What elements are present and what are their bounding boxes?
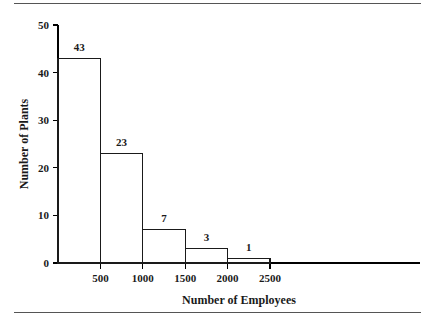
y-axis-ticks [53, 25, 58, 263]
histogram-chart: 0 10 20 30 40 50 500 1000 1500 2000 2500… [0, 0, 435, 328]
x-tick-label-2500: 2500 [259, 272, 282, 284]
y-tick-label-40: 40 [38, 67, 50, 79]
bar-value-label-1: 23 [116, 136, 128, 148]
x-axis-title: Number of Employees [182, 293, 296, 307]
y-axis-title: Number of Plants [17, 98, 31, 189]
bar-value-label-4: 1 [246, 241, 252, 253]
bar-value-label-3: 3 [204, 231, 210, 243]
bar-2000-2500[interactable] [228, 258, 270, 263]
bar-value-label-0: 43 [74, 41, 86, 53]
x-axis-ticks [100, 263, 270, 269]
y-tick-label-30: 30 [38, 114, 50, 126]
bar-value-label-2: 7 [161, 212, 167, 224]
figure-container: 0 10 20 30 40 50 500 1000 1500 2000 2500… [0, 0, 435, 328]
bar-500-1000[interactable] [100, 154, 142, 264]
y-tick-label-10: 10 [38, 209, 50, 221]
y-tick-label-20: 20 [38, 162, 50, 174]
bar-1500-2000[interactable] [185, 249, 227, 263]
x-tick-label-1500: 1500 [174, 272, 197, 284]
bars-group [58, 58, 270, 263]
y-tick-label-0: 0 [44, 257, 50, 269]
bar-1000-1500[interactable] [143, 230, 185, 263]
x-tick-label-2000: 2000 [217, 272, 240, 284]
x-tick-label-500: 500 [92, 272, 109, 284]
y-tick-label-50: 50 [38, 19, 50, 31]
bar-0-500[interactable] [58, 58, 100, 263]
x-tick-label-1000: 1000 [132, 272, 155, 284]
